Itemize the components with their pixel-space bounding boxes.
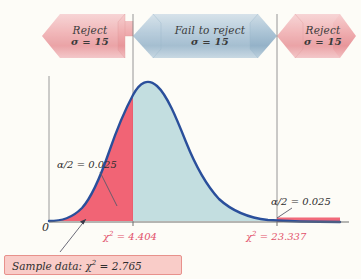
alpha-label-right: α/2 = 0.025	[271, 196, 331, 207]
leader-line-sample-data	[60, 219, 86, 252]
sample-data-callout: Sample data: χ2 = 2.765	[4, 255, 182, 275]
left-rejection-region	[49, 95, 133, 221]
critical-left-value: = 4.404	[114, 231, 157, 242]
sample-data-text: Sample data: χ2 = 2.765	[12, 259, 142, 272]
banner-reject-left	[42, 14, 133, 58]
critical-value-left: χ2 = 4.404	[103, 230, 157, 242]
callout-value: = 2.765	[96, 259, 142, 271]
leader-line-alpha-right	[277, 208, 292, 218]
callout-prefix: Sample data:	[12, 259, 85, 271]
fail-to-reject-region	[133, 82, 277, 221]
banner-fail-to-reject	[133, 14, 277, 58]
axis-origin-label: 0	[42, 221, 49, 234]
alpha-label-left: α/2 = 0.025	[57, 159, 117, 170]
chart-canvas	[0, 0, 361, 279]
chi-square-figure: Reject σ = 15 Fail to reject σ = 15 Reje…	[0, 0, 361, 279]
banner-reject-right	[277, 14, 356, 58]
critical-value-right: χ2 = 23.337	[246, 230, 306, 242]
critical-right-value: = 23.337	[257, 231, 307, 242]
